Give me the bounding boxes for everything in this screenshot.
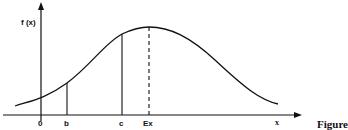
origin-label: 0 (38, 120, 42, 128)
x-axis-arrow-icon (294, 112, 302, 118)
c-label: c (119, 120, 123, 128)
x-axis-label: x (275, 119, 279, 127)
y-axis-arrow-icon (38, 2, 44, 10)
density-curve (15, 27, 278, 106)
figure-caption: Figure (317, 118, 348, 130)
ex-label: Ex (143, 120, 153, 128)
y-axis-label: f (x) (21, 19, 36, 27)
b-label: b (64, 120, 69, 128)
